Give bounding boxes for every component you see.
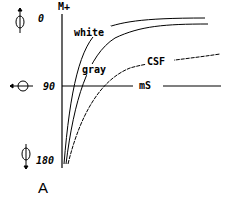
gray-label: gray [82, 64, 106, 75]
csf-label: CSF [147, 56, 165, 67]
mri-recovery-diagram: 0 90 180 M+ mS white gray CSF A [0, 0, 228, 199]
tick-label-180: 180 [36, 155, 54, 166]
phase-arrow-down-icon [22, 144, 30, 169]
y-axis-label: M+ [58, 1, 70, 12]
tick-label-0: 0 [38, 13, 44, 24]
phase-arrow-up-icon [16, 8, 24, 33]
white-curve [64, 18, 205, 164]
phase-arrow-left-icon [10, 81, 33, 91]
x-axis-label: mS [139, 80, 151, 91]
panel-label: A [38, 179, 48, 196]
tick-label-90: 90 [43, 81, 55, 92]
white-label: white [74, 27, 104, 38]
